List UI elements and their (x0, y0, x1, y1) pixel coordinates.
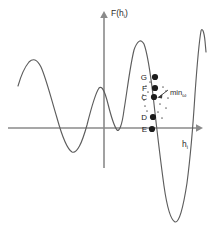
candidate-point-C[interactable]: C (141, 93, 157, 102)
noise-dot (147, 91, 149, 93)
candidate-point-F[interactable]: F (142, 84, 158, 93)
x-axis-arrowhead (196, 124, 203, 132)
noise-dot (157, 111, 159, 113)
x-axis-label: hi (182, 139, 188, 150)
y-axis (100, 11, 108, 168)
noise-dot (144, 105, 146, 107)
min-omega-annotation: minω (170, 88, 186, 98)
function-plot-svg: F(hi) hi minω (0, 0, 208, 236)
point-marker-E[interactable] (149, 126, 155, 132)
noise-dot (159, 103, 161, 105)
x-axis (8, 124, 203, 132)
noise-dot (161, 117, 163, 119)
candidate-point-G[interactable]: G (141, 73, 158, 82)
point-marker-G[interactable] (152, 74, 158, 80)
point-marker-F[interactable] (152, 85, 158, 91)
candidate-point-E[interactable]: E (142, 125, 155, 134)
figure-container: F(hi) hi minω (0, 0, 208, 236)
noise-dot (167, 97, 169, 99)
noise-dot (146, 110, 148, 112)
function-curve (18, 29, 206, 222)
min-pointer-arrowhead (157, 94, 162, 98)
point-label-D: D (141, 113, 147, 122)
point-label-F: F (142, 84, 147, 93)
y-axis-arrowhead (100, 11, 108, 18)
point-label-E: E (142, 125, 147, 134)
point-marker-D[interactable] (150, 114, 156, 120)
min-pointer-arrow (157, 90, 168, 99)
candidate-point-D[interactable]: D (141, 113, 156, 122)
point-marker-C[interactable] (151, 94, 157, 100)
point-label-G: G (141, 73, 147, 82)
noise-dot (162, 86, 164, 88)
y-axis-label: F(hi) (111, 8, 128, 19)
point-label-C: C (141, 93, 147, 102)
noise-dot (165, 107, 167, 109)
noise-dot (149, 81, 151, 83)
